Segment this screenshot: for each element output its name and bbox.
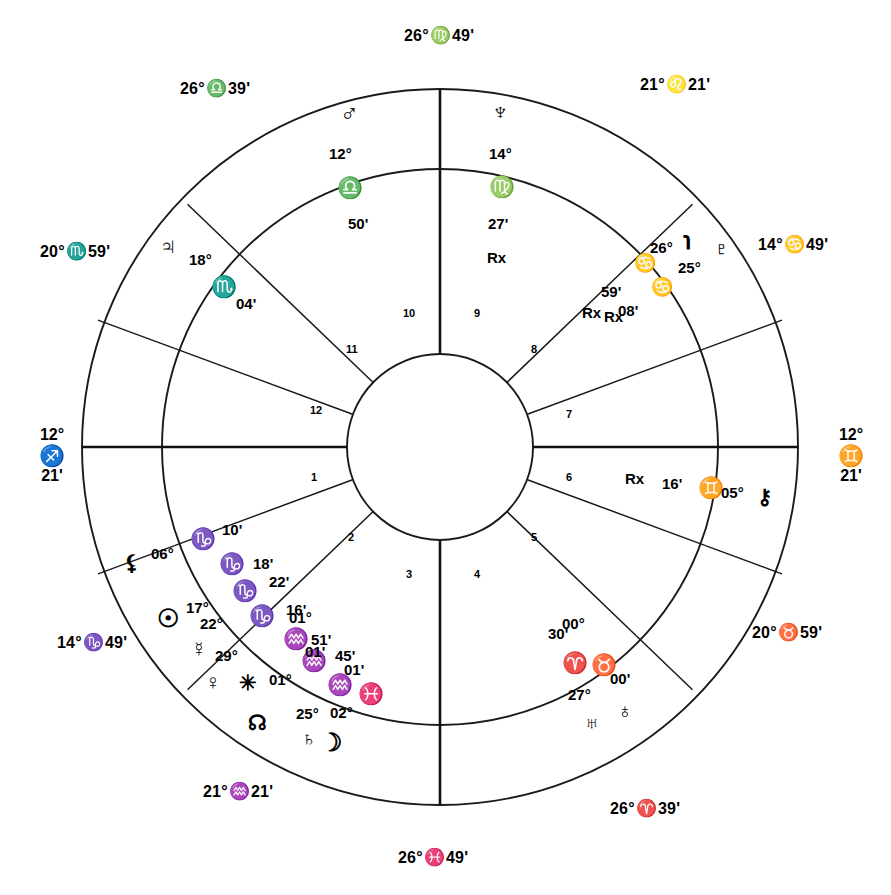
neptune-minute: 27'	[488, 216, 508, 231]
cusp-5-sign-glyph: ♒	[228, 782, 251, 801]
cusp-mc-sign-glyph: ♍	[429, 26, 452, 45]
mars-minute: 50'	[348, 216, 368, 231]
cusp-label-11: 21°♌21'	[640, 76, 710, 93]
cusp-11-minute: 21'	[688, 76, 710, 93]
vertex-icon: ✳	[239, 672, 257, 693]
house-number-2: 2	[348, 531, 354, 543]
cusp-2-sign-glyph: ♉	[777, 623, 800, 642]
sun-sign-glyph: ♑	[219, 553, 245, 574]
house-number-4: 4	[474, 568, 480, 580]
cusp-11-sign-glyph: ♌	[665, 75, 688, 94]
saturn-minute: 45'	[335, 648, 355, 663]
uranus-sign-glyph: ♈	[562, 652, 588, 673]
cusp-3-degree: 26°	[610, 800, 635, 817]
south-node-retrograde: Rx	[582, 305, 601, 320]
pluto-sign-glyph: ♋	[651, 278, 673, 296]
moon-degree: 02°	[330, 705, 353, 720]
cusp-label-ascendant: 12° ♐ 21'	[26, 426, 78, 485]
neptune-sign-glyph: ♍	[489, 176, 515, 197]
moon-icon: ☽	[320, 730, 342, 755]
lilith-icon: ⚸	[124, 552, 139, 573]
mercury-sign-glyph: ♑	[232, 580, 258, 601]
cusp-dsc-minute: 21'	[828, 467, 874, 485]
neptune-retrograde: Rx	[487, 250, 506, 265]
jupiter-degree: 18°	[189, 252, 212, 267]
cusp-6-sign-glyph: ♑	[82, 633, 105, 652]
sun-degree: 17°	[186, 600, 209, 615]
cusp-label-ic: 26°♓49'	[398, 849, 468, 866]
south-node-icon: ℩	[683, 228, 691, 253]
mars-degree: 12°	[329, 146, 352, 161]
vertex-minute: 51'	[311, 632, 331, 647]
house-number-8: 8	[531, 343, 537, 355]
mars-icon: ♂	[340, 100, 359, 125]
cusp-asc-sign-glyph: ♐	[26, 444, 78, 468]
jupiter-minute: 04'	[236, 296, 256, 311]
chart-wheel-svg	[0, 0, 891, 895]
cusp-label-5: 21°♒21'	[203, 783, 273, 800]
chiron-icon: ⚷	[757, 486, 772, 507]
cusp-ic-degree: 26°	[398, 849, 423, 866]
cusp-label-9: 26°♎39'	[180, 80, 250, 97]
part-fortune-minute: 00'	[610, 671, 630, 686]
cusp-label-mc: 26°♍49'	[404, 27, 474, 44]
chiron-degree: 05°	[721, 485, 744, 500]
jupiter-icon: ♃	[159, 234, 178, 259]
cusp-9-minute: 39'	[228, 80, 250, 97]
mercury-degree: 22°	[200, 616, 223, 631]
lilith-sign-glyph: ♑	[190, 528, 216, 549]
house-number-1: 1	[311, 471, 317, 483]
house-number-5: 5	[531, 531, 537, 543]
cusp-12-degree: 14°	[758, 236, 783, 253]
chiron-minute: 16'	[662, 476, 682, 491]
saturn-icon: ♄	[301, 728, 317, 749]
cusp-asc-minute: 21'	[26, 467, 78, 485]
cusp-9-degree: 26°	[180, 80, 205, 97]
cusp-11-degree: 21°	[640, 76, 665, 93]
cusp-ic-minute: 49'	[446, 849, 468, 866]
vertex-sign-glyph: ♒	[283, 628, 309, 649]
cusp-mc-minute: 49'	[452, 27, 474, 44]
cusp-2-minute: 59'	[800, 624, 822, 641]
venus-sign-glyph: ♑	[249, 605, 275, 626]
cusp-3-sign-glyph: ♈	[635, 799, 658, 818]
cusp-ic-sign-glyph: ♓	[423, 848, 446, 867]
cusp-9-sign-glyph: ♎	[205, 79, 228, 98]
house-number-12: 12	[310, 404, 322, 416]
cusp-3-minute: 39'	[658, 800, 680, 817]
cusp-6-minute: 49'	[105, 634, 127, 651]
pluto-retrograde: Rx	[604, 309, 623, 324]
mars-sign-glyph: ♎	[337, 177, 363, 198]
moon-sign-glyph: ♓	[358, 683, 384, 704]
jupiter-sign-glyph: ♏	[211, 276, 237, 297]
venus-minute: 16'	[286, 602, 306, 617]
sun-minute: 18'	[253, 556, 273, 571]
inner-circle	[347, 354, 533, 540]
cusp-5-degree: 21°	[203, 783, 228, 800]
neptune-icon: ♆	[491, 99, 510, 124]
neptune-degree: 14°	[489, 146, 512, 161]
house-number-3: 3	[406, 568, 412, 580]
chiron-retrograde: Rx	[625, 471, 644, 486]
cusp-label-12: 14°♋49'	[758, 236, 828, 253]
sun-icon: ☉	[157, 606, 179, 631]
pluto-degree: 25°	[678, 260, 701, 275]
part-fortune-icon: ♁	[617, 700, 633, 721]
south-node-sign-glyph: ♋	[634, 254, 656, 272]
north-node-icon: ☊	[248, 712, 267, 733]
cusp-label-6: 14°♑49'	[57, 634, 127, 651]
uranus-degree: 27°	[568, 687, 591, 702]
cusp-dsc-degree: 12°	[828, 426, 874, 444]
house-number-7: 7	[566, 408, 572, 420]
cusp-6-degree: 14°	[57, 634, 82, 651]
cusp-dsc-sign-glyph: ♊	[828, 444, 874, 468]
cusp-5-minute: 21'	[251, 783, 273, 800]
cusp-8-minute: 59'	[88, 243, 110, 260]
pluto-icon: ♇	[712, 236, 731, 261]
chart-axes	[82, 89, 798, 805]
lilith-degree: 06°	[151, 546, 174, 561]
venus-degree: 29°	[215, 648, 238, 663]
venus-icon: ♀	[205, 671, 221, 692]
house-number-10: 10	[403, 307, 415, 319]
south-node-minute: 59'	[601, 284, 621, 299]
